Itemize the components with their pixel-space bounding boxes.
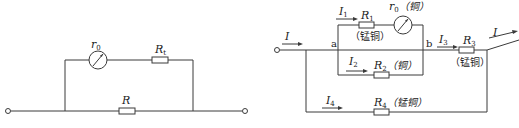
branch-wire-right — [168, 60, 193, 111]
r4-label: R4（锰铜） — [373, 96, 427, 110]
node-a-label: a — [331, 38, 337, 49]
shunt-resistor-label: R — [121, 94, 130, 107]
galvanometer-icon — [89, 51, 107, 69]
right-circuit: I a b I1 R1 （锰铜） r0（铜） I2 — [275, 0, 519, 115]
r1-label: R1 — [360, 9, 374, 23]
i3-label: I3 — [438, 33, 448, 47]
galvanometer-icon — [394, 16, 412, 34]
branch4-wire-left — [306, 50, 374, 112]
series-resistor-label: Rt — [154, 43, 166, 57]
output-terminal — [243, 109, 248, 114]
i2-arrow-icon — [346, 69, 368, 73]
input-terminal — [6, 109, 11, 114]
node-b-label: b — [426, 38, 432, 49]
series-resistor-rt — [152, 57, 168, 63]
r3-material: （锰铜） — [450, 56, 490, 68]
output-lead — [487, 40, 519, 50]
circuit-diagram: R r0 Rt I a b I1 — [0, 0, 519, 128]
input-terminal — [275, 48, 280, 53]
r2-label: R2（铜） — [373, 59, 417, 73]
r3-label: R3 — [462, 34, 476, 48]
meter-label: r0（铜） — [389, 0, 429, 14]
branch-wire-left — [65, 60, 89, 111]
r1-material: （锰铜） — [350, 30, 390, 42]
input-current-label: I — [284, 30, 290, 43]
left-circuit: R r0 Rt — [6, 38, 248, 114]
i1-label: I1 — [338, 5, 348, 19]
shunt-resistor-r — [119, 108, 135, 114]
i4-label: I4 — [325, 94, 335, 108]
i2-label: I2 — [348, 55, 358, 69]
meter-label: r0 — [91, 38, 101, 52]
